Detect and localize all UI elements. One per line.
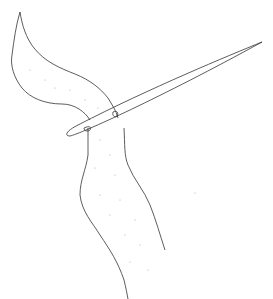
yarn-strand <box>11 12 165 299</box>
fuzz-dots <box>29 69 195 270</box>
illustration <box>0 0 273 299</box>
needle <box>67 42 262 136</box>
